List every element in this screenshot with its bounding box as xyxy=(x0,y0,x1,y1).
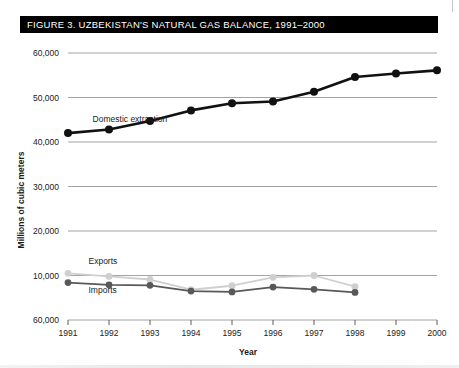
data-point-marker xyxy=(105,126,113,134)
data-point-marker xyxy=(311,272,318,279)
data-point-marker xyxy=(228,99,236,107)
x-axis-tick-label: 1994 xyxy=(182,328,201,338)
x-axis-tick-label: 1993 xyxy=(141,328,160,338)
x-axis-tick-label: 1999 xyxy=(387,328,406,338)
series-domestic-extraction xyxy=(64,66,441,137)
data-point-marker xyxy=(269,98,277,106)
data-point-marker xyxy=(187,106,195,114)
annotation-imports: Imports xyxy=(89,285,117,295)
x-axis-tick-label: 1996 xyxy=(264,328,283,338)
x-axis-title: Year xyxy=(239,347,258,357)
data-point-marker xyxy=(270,284,277,291)
data-point-marker xyxy=(392,69,400,77)
data-point-marker xyxy=(147,276,154,283)
y-axis-tick-label: 60,000 xyxy=(33,315,59,325)
data-point-marker xyxy=(352,283,359,290)
y-axis-title: Millions of cubic meters xyxy=(16,151,26,248)
data-point-marker xyxy=(65,279,72,286)
x-axis-tick-label: 1995 xyxy=(223,328,242,338)
data-point-marker xyxy=(64,129,72,137)
y-axis-tick-label: 50,000 xyxy=(33,93,59,103)
x-axis-tick-label: 1998 xyxy=(346,328,365,338)
y-axis-tick-label: 10,000 xyxy=(33,271,59,281)
y-axis-tick-label: 60,000 xyxy=(33,48,59,58)
x-axis-tick-labels: 1991199219931994199519961997199819992000 xyxy=(59,328,447,338)
gas-balance-line-chart: 60,00050,00040,00030,00020,00010,00060,0… xyxy=(0,0,459,368)
data-point-marker xyxy=(147,282,154,289)
data-series xyxy=(64,66,441,295)
annotation-domestic-extraction: Domestic extraction xyxy=(93,114,168,124)
data-point-marker xyxy=(188,288,195,295)
y-axis-tick-label: 40,000 xyxy=(33,137,59,147)
annotation-exports: Exports xyxy=(89,256,118,266)
data-point-marker xyxy=(229,289,236,296)
chart-area: 60,00050,00040,00030,00020,00010,00060,0… xyxy=(0,0,459,368)
data-point-marker xyxy=(229,282,236,289)
gridlines xyxy=(68,53,437,320)
data-point-marker xyxy=(351,73,359,81)
data-point-marker xyxy=(270,274,277,281)
data-point-marker xyxy=(65,270,72,277)
data-point-marker xyxy=(106,273,113,280)
data-point-marker xyxy=(311,286,318,293)
x-axis-tick-marks xyxy=(68,320,437,325)
x-axis-tick-label: 1991 xyxy=(59,328,78,338)
data-point-marker xyxy=(310,88,318,96)
data-point-marker xyxy=(352,289,359,296)
x-axis-tick-label: 2000 xyxy=(428,328,447,338)
y-axis-tick-label: 30,000 xyxy=(33,182,59,192)
series-annotations: Domestic extractionExportsImports xyxy=(89,114,168,295)
data-point-marker xyxy=(433,66,441,74)
x-axis-tick-label: 1992 xyxy=(100,328,119,338)
y-axis-tick-labels: 60,00050,00040,00030,00020,00010,00060,0… xyxy=(33,48,59,325)
y-axis-tick-label: 20,000 xyxy=(33,226,59,236)
x-axis-tick-label: 1997 xyxy=(305,328,324,338)
